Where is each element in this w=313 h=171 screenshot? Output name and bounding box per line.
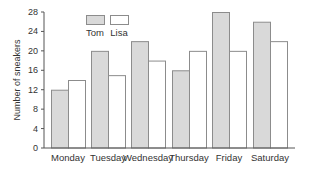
bar-tom-wednesday xyxy=(132,42,149,148)
bar-chart: 0481216202428 MondayTuesdayWednesdayThur… xyxy=(0,0,313,171)
bar-lisa-friday xyxy=(230,51,247,148)
bar-tom-friday xyxy=(213,13,230,149)
legend-swatch-lisa xyxy=(111,16,129,25)
legend: TomLisa xyxy=(86,16,128,39)
bar-lisa-tuesday xyxy=(109,76,126,148)
bar-lisa-saturday xyxy=(271,42,288,148)
legend-label-tom: Tom xyxy=(86,27,104,38)
x-tick-label: Monday xyxy=(51,152,85,163)
bar-tom-tuesday xyxy=(92,51,109,148)
y-tick-label: 20 xyxy=(28,46,38,56)
y-axis: 0481216202428 xyxy=(28,7,44,153)
y-tick-label: 4 xyxy=(33,124,38,134)
y-tick-label: 0 xyxy=(33,143,38,153)
y-tick-label: 12 xyxy=(28,85,38,95)
y-tick-label: 8 xyxy=(33,104,38,114)
bar-lisa-thursday xyxy=(190,51,207,148)
legend-label-lisa: Lisa xyxy=(110,27,128,38)
bar-tom-monday xyxy=(52,90,69,148)
x-tick-label: Friday xyxy=(216,152,243,163)
y-tick-label: 16 xyxy=(28,65,38,75)
bar-lisa-monday xyxy=(69,81,86,149)
y-axis-title: Number of sneakers xyxy=(12,39,22,121)
x-axis: MondayTuesdayWednesdayThursdayFridaySatu… xyxy=(44,148,295,163)
bar-lisa-wednesday xyxy=(149,61,166,148)
bar-tom-saturday xyxy=(254,22,271,148)
bar-tom-thursday xyxy=(173,71,190,148)
x-tick-label: Tuesday xyxy=(90,152,126,163)
y-tick-label: 28 xyxy=(28,7,38,17)
legend-swatch-tom xyxy=(87,16,105,25)
x-tick-label: Saturday xyxy=(251,152,289,163)
x-tick-label: Wednesday xyxy=(123,152,173,163)
x-tick-label: Thursday xyxy=(169,152,209,163)
y-tick-label: 24 xyxy=(28,26,38,36)
